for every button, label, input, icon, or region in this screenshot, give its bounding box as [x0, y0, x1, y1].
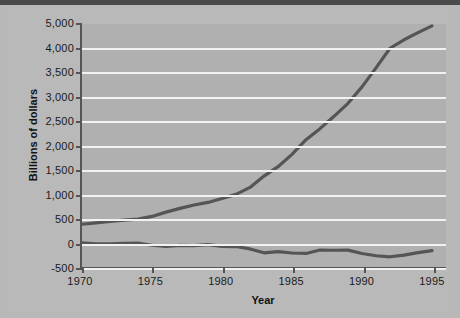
gridline	[82, 72, 446, 74]
plot-area	[80, 24, 446, 269]
y-axis-tick-mark	[76, 195, 82, 197]
y-axis-tick-label: 1,000	[45, 189, 74, 201]
y-axis-tick-mark	[76, 23, 82, 25]
x-axis-tick-label: 1975	[138, 275, 163, 287]
y-axis-tick-labels: 5,0004,0003,5003,0002,5002,0001,5001,000…	[22, 24, 74, 269]
y-axis-tick-mark	[76, 72, 82, 74]
y-axis-tick-mark	[76, 97, 82, 99]
y-axis-tick-label: 1,500	[45, 164, 74, 176]
gridline	[82, 195, 446, 197]
y-axis-tick-label: -500	[51, 262, 74, 274]
y-axis-tick-label: 4,000	[45, 42, 74, 54]
x-axis-tick-label: 1985	[279, 275, 304, 287]
x-axis-tick-mark	[364, 267, 366, 273]
y-axis-tick-mark	[76, 48, 82, 50]
y-axis-tick-label: 500	[55, 213, 74, 225]
x-axis-tick-mark	[152, 267, 154, 273]
y-axis-tick-mark	[76, 219, 82, 221]
gridline	[82, 48, 446, 50]
gridline	[82, 121, 446, 123]
x-axis-tick-mark	[82, 267, 84, 273]
x-axis-title: Year	[80, 294, 446, 306]
y-axis-tick-label: 2,500	[45, 115, 74, 127]
y-axis-tick-label: 3,500	[45, 66, 74, 78]
x-axis-tick-label: 1980	[208, 275, 233, 287]
x-axis-tick-label: 1995	[419, 275, 444, 287]
gridline	[82, 268, 446, 270]
y-axis-tick-mark	[76, 146, 82, 148]
y-axis-tick-label: 0	[68, 238, 74, 250]
x-axis-tick-mark	[293, 267, 295, 273]
y-axis-tick-mark	[76, 121, 82, 123]
x-axis-tick-label: 1970	[67, 275, 92, 287]
gridline	[82, 244, 446, 246]
y-axis-tick-mark	[76, 244, 82, 246]
figure-top-rule	[0, 0, 460, 5]
gridline	[82, 146, 446, 148]
gridline	[82, 219, 446, 221]
figure-face: Billions of dollars 5,0004,0003,5003,000…	[6, 7, 454, 311]
x-axis-tick-mark	[223, 267, 225, 273]
chart-figure: Billions of dollars 5,0004,0003,5003,000…	[0, 0, 460, 318]
y-axis-tick-mark	[76, 170, 82, 172]
x-axis-tick-mark	[434, 267, 436, 273]
y-axis-tick-label: 5,000	[45, 17, 74, 29]
gridline	[82, 97, 446, 99]
gridline	[82, 170, 446, 172]
y-axis-tick-label: 2,000	[45, 140, 74, 152]
y-axis-tick-label: 3,000	[45, 91, 74, 103]
x-axis-tick-label: 1990	[349, 275, 374, 287]
